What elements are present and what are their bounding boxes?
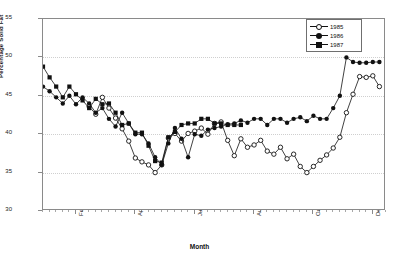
data-point-open-circle — [305, 170, 309, 174]
data-point-open-circle — [285, 157, 289, 161]
data-point-circle — [179, 137, 183, 141]
data-point-open-circle — [298, 164, 302, 168]
data-point-circle — [258, 117, 262, 121]
data-point-circle — [245, 120, 249, 124]
data-point-circle — [377, 60, 381, 64]
data-point-open-circle — [318, 158, 322, 162]
y-tick-label: 55 — [0, 14, 12, 20]
data-point-circle — [371, 60, 375, 64]
data-point-circle — [61, 101, 65, 105]
legend-entry-1987: 1987 — [310, 40, 358, 49]
legend-entry-1986: 1986 — [310, 31, 358, 40]
data-point-circle — [212, 126, 216, 130]
y-tick-label: 45 — [0, 91, 12, 97]
data-point-square — [113, 111, 117, 115]
data-point-square — [67, 84, 71, 88]
data-point-square — [239, 123, 243, 127]
data-point-square — [100, 102, 104, 106]
data-point-circle — [173, 126, 177, 130]
data-point-square — [186, 121, 190, 125]
data-point-square — [94, 97, 98, 101]
chart-figure: Percentage Solid Fat 303540455055 FebApr… — [0, 0, 399, 263]
data-point-open-circle — [107, 106, 111, 110]
data-point-circle — [47, 89, 51, 93]
data-point-open-circle — [324, 153, 328, 157]
y-tick-label: 50 — [0, 52, 12, 58]
data-point-circle — [252, 117, 256, 121]
data-point-square — [166, 135, 170, 139]
y-tick-label: 30 — [0, 206, 12, 212]
data-point-open-circle — [272, 152, 276, 156]
data-point-circle — [67, 94, 71, 98]
data-point-open-circle — [278, 145, 282, 149]
data-point-circle — [285, 120, 289, 124]
data-point-square — [127, 121, 131, 125]
data-point-circle — [113, 124, 117, 128]
data-point-circle — [94, 111, 98, 115]
data-point-circle — [107, 117, 111, 121]
data-point-open-circle — [133, 156, 137, 160]
data-point-square — [107, 101, 111, 105]
data-point-circle — [318, 117, 322, 121]
data-point-square — [219, 121, 223, 125]
data-point-square — [87, 106, 91, 110]
data-point-open-circle — [186, 131, 190, 135]
data-point-square — [54, 84, 58, 88]
data-point-open-circle — [245, 145, 249, 149]
data-point-circle — [351, 60, 355, 64]
legend-label: 1987 — [330, 42, 343, 48]
data-point-open-circle — [351, 92, 355, 96]
data-point-circle — [305, 119, 309, 123]
y-tick-label: 35 — [0, 168, 12, 174]
data-point-circle — [324, 117, 328, 121]
data-point-open-circle — [344, 111, 348, 115]
data-point-square — [61, 95, 65, 99]
data-point-circle — [331, 106, 335, 110]
data-point-circle — [199, 134, 203, 138]
data-point-square — [160, 161, 164, 165]
series-1987 — [43, 65, 243, 165]
x-axis-title: Month — [0, 243, 399, 250]
data-point-square — [232, 123, 236, 127]
data-point-open-circle — [331, 146, 335, 150]
data-point-circle — [344, 55, 348, 59]
data-point-circle — [239, 118, 243, 122]
data-point-circle — [54, 95, 58, 99]
data-point-open-circle — [232, 154, 236, 158]
data-point-open-circle — [371, 74, 375, 78]
data-point-square — [140, 131, 144, 135]
data-point-circle — [311, 114, 315, 118]
data-point-square — [153, 159, 157, 163]
data-point-open-circle — [225, 138, 229, 142]
legend-label: 1985 — [330, 24, 343, 30]
data-point-circle — [357, 61, 361, 65]
data-point-circle — [364, 61, 368, 65]
legend-marker-open-circle-icon — [310, 22, 328, 31]
data-point-circle — [278, 117, 282, 121]
data-point-open-circle — [311, 164, 315, 168]
data-point-open-circle — [120, 127, 124, 131]
data-point-open-circle — [338, 135, 342, 139]
data-point-square — [226, 123, 230, 127]
data-point-open-circle — [258, 138, 262, 142]
data-point-circle — [338, 94, 342, 98]
data-point-square — [146, 144, 150, 148]
series-line — [43, 67, 241, 163]
data-point-square — [193, 121, 197, 125]
data-point-circle — [100, 106, 104, 110]
data-point-open-circle — [265, 149, 269, 153]
data-point-open-circle — [364, 75, 368, 79]
data-point-open-circle — [127, 139, 131, 143]
data-point-open-circle — [199, 126, 203, 130]
data-point-square — [133, 131, 137, 135]
data-point-circle — [186, 155, 190, 159]
data-point-open-circle — [291, 152, 295, 156]
legend-marker-filled-square-icon — [310, 40, 328, 49]
data-point-square — [206, 117, 210, 121]
data-point-circle — [291, 117, 295, 121]
data-point-square — [173, 130, 177, 134]
data-point-open-circle — [113, 116, 117, 120]
data-point-open-circle — [377, 84, 381, 88]
data-point-circle — [120, 111, 124, 115]
data-point-circle — [193, 132, 197, 136]
